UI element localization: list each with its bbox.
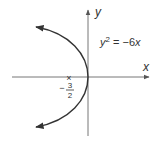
equation-rhs-var: x — [134, 36, 141, 48]
equation-label: y2 = −6x — [99, 35, 141, 48]
parabola-curve-upper — [36, 27, 88, 77]
parabola-diagram: y x y2 = −6x × − 3 2 — [0, 0, 161, 146]
focus-denominator: 2 — [68, 91, 73, 100]
y-axis-label: y — [94, 5, 102, 19]
focus-sign: − — [59, 83, 64, 93]
x-axis-label: x — [142, 60, 150, 74]
focus-numerator: 3 — [68, 81, 73, 90]
equation-rest: = −6 — [110, 36, 135, 48]
